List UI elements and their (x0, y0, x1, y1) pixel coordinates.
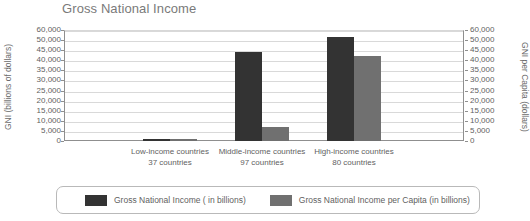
tick-mark (465, 131, 468, 132)
y-axis-tick: 60,000 (1, 26, 61, 34)
bar (262, 127, 289, 141)
legend-label-series-0: Gross National Income ( in billions) (114, 195, 246, 205)
y-axis-tick: 20,000 (1, 97, 61, 105)
bars-layer (64, 30, 464, 141)
y-axis-tick: 45,000 (1, 46, 61, 54)
tick-mark (465, 50, 468, 51)
tick-mark (465, 40, 468, 41)
tick-mark (465, 101, 468, 102)
y2-axis-tick: 35,000 (470, 66, 530, 74)
tick-mark (465, 70, 468, 71)
category-sublabel: 80 countries (284, 157, 424, 168)
y2-axis-tick: 50,000 (470, 36, 530, 44)
y2-axis-tick: 20,000 (470, 97, 530, 105)
legend-label-series-1: Gross National Income per Capita (in bil… (299, 195, 470, 205)
y2-axis-tick: 5,000 (470, 127, 530, 135)
x-axis-category: High-income countries80 countries (284, 146, 424, 168)
y2-axis-tick: 60,000 (470, 26, 530, 34)
y2-axis-tick: 40,000 (470, 56, 530, 64)
y-axis-tick: 10,000 (1, 117, 61, 125)
legend-item: Gross National Income per Capita (in bil… (270, 195, 470, 206)
legend-item: Gross National Income ( in billions) (85, 195, 246, 206)
tick-mark (465, 60, 468, 61)
tick-mark (465, 141, 468, 142)
y2-axis-tick: 10,000 (470, 117, 530, 125)
y2-axis-tick: 30,000 (470, 76, 530, 84)
y-axis-tick: 0 (1, 137, 61, 145)
y2-axis-tick: 25,000 (470, 87, 530, 95)
y-axis-tick: 40,000 (1, 56, 61, 64)
tick-mark (61, 141, 64, 142)
y-axis-tick: 50,000 (1, 36, 61, 44)
bar (354, 56, 381, 141)
tick-mark (465, 91, 468, 92)
bar (143, 139, 170, 141)
legend-swatch-series-1 (270, 195, 292, 206)
bar (170, 139, 197, 141)
y2-axis-tick: 15,000 (470, 107, 530, 115)
tick-mark (465, 121, 468, 122)
y-axis-tick: 5,000 (1, 127, 61, 135)
y-axis-tick: 35,000 (1, 66, 61, 74)
y2-axis-tick: 45,000 (470, 46, 530, 54)
y2-axis-tick: 0 (470, 137, 530, 145)
tick-mark (465, 30, 468, 31)
y-axis-tick: 25,000 (1, 87, 61, 95)
chart-legend: Gross National Income ( in billions) Gro… (56, 186, 480, 214)
chart-title: Gross National Income (62, 1, 196, 16)
tick-mark (465, 80, 468, 81)
bar (327, 37, 354, 141)
y-axis-tick: 15,000 (1, 107, 61, 115)
bar (235, 52, 262, 141)
category-label: High-income countries (314, 147, 394, 156)
tick-mark (465, 111, 468, 112)
legend-swatch-series-0 (85, 195, 107, 206)
y-axis-tick: 30,000 (1, 76, 61, 84)
